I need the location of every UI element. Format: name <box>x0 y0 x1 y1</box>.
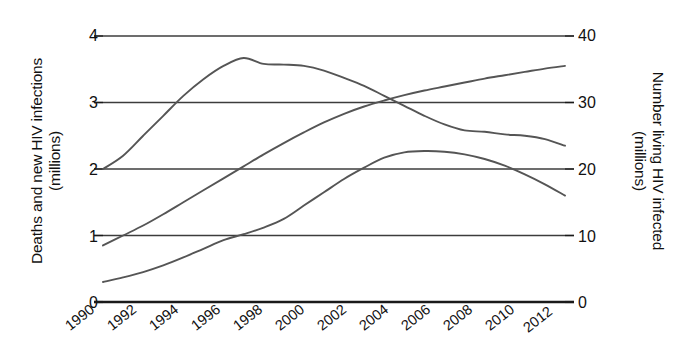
series-line-2 <box>103 66 565 246</box>
series-line-1 <box>103 151 565 282</box>
chart-figure: Deaths and new HIV infections (millions)… <box>0 0 675 363</box>
series-line-0 <box>103 58 565 169</box>
plot-area <box>0 0 675 363</box>
series-layer <box>103 58 565 282</box>
